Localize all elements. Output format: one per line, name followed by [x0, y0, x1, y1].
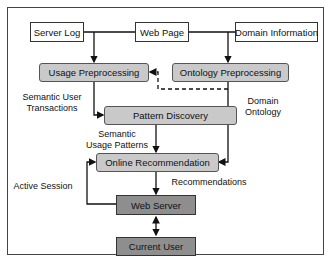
label-line: Semantic User [22, 92, 82, 103]
web-page-label: Web Page [140, 27, 184, 38]
pattern-discovery-label: Pattern Discovery [133, 110, 208, 121]
server-log-box: Server Log [30, 22, 84, 42]
label-line: Semantic [84, 129, 150, 140]
semantic-usage-patterns-label: Semantic Usage Patterns [84, 129, 150, 151]
web-server-box: Web Server [116, 195, 196, 215]
semantic-user-transactions-label: Semantic User Transactions [22, 92, 82, 114]
online-recommendation-label: Online Recommendation [105, 157, 210, 168]
active-session-label: Active Session [12, 181, 74, 192]
recommendations-label: Recommendations [170, 177, 248, 188]
label-line: Domain [238, 96, 288, 107]
ontology-preprocessing-label: Ontology Preprocessing [180, 67, 281, 78]
current-user-label: Current User [129, 241, 183, 252]
label-line: Usage Patterns [84, 140, 150, 151]
domain-ontology-label: Domain Ontology [238, 96, 288, 118]
online-recommendation-box: Online Recommendation [96, 153, 219, 172]
label-line: Ontology [238, 107, 288, 118]
label-line: Transactions [22, 103, 82, 114]
web-server-label: Web Server [131, 200, 181, 211]
current-user-box: Current User [116, 237, 196, 256]
domain-information-box: Domain Information [235, 22, 318, 42]
usage-preprocessing-label: Usage Preprocessing [49, 67, 140, 78]
usage-preprocessing-box: Usage Preprocessing [39, 63, 149, 82]
pattern-discovery-box: Pattern Discovery [104, 106, 237, 125]
ontology-preprocessing-box: Ontology Preprocessing [172, 63, 289, 82]
domain-information-label: Domain Information [235, 27, 318, 38]
server-log-label: Server Log [34, 27, 80, 38]
web-page-box: Web Page [135, 22, 189, 42]
